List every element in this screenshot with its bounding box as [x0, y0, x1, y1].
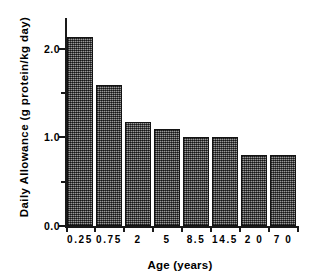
x-tick [152, 226, 154, 232]
bar [212, 137, 238, 226]
y-minor-tick [61, 92, 66, 94]
y-axis-title: Daily Allowance (g protein/kg day) [15, 0, 33, 237]
x-tick-label: 0.25 [67, 234, 93, 245]
x-tick [239, 226, 241, 232]
x-tick-label: 2 0 [245, 234, 264, 245]
y-tick-1.0 [59, 136, 66, 138]
x-tick-label: 0.75 [96, 234, 122, 245]
y-tick-0.0 [59, 225, 66, 227]
x-tick [123, 226, 125, 232]
bar [183, 137, 209, 226]
x-tick-label: 2 [134, 234, 141, 245]
x-tick [210, 226, 212, 232]
x-tick-label: 7 0 [274, 234, 293, 245]
y-tick-2.0 [59, 48, 66, 50]
x-tick [181, 226, 183, 232]
x-tick-label: 5 [163, 234, 170, 245]
y-minor-tick [61, 181, 66, 183]
x-tick [268, 226, 270, 232]
bar [154, 129, 180, 226]
y-tick-label: 2.0 [44, 43, 60, 55]
x-axis-title: Age (years) [60, 259, 300, 271]
bar [67, 37, 93, 226]
plot-area: 0.01.02.0 0.250.75258.514.52 07 0 [65, 18, 299, 227]
bar [125, 122, 151, 226]
y-tick-label: 1.0 [44, 131, 60, 143]
bar [241, 155, 267, 226]
bar [96, 85, 122, 226]
bar [270, 155, 296, 226]
x-tick-origin [66, 226, 68, 232]
bar-chart-figure: Daily Allowance (g protein/kg day) Age (… [0, 0, 311, 279]
x-tick [297, 226, 299, 232]
x-tick-label: 8.5 [187, 234, 206, 245]
y-tick-label: 0.0 [44, 220, 60, 232]
x-tick [94, 226, 96, 232]
x-tick-label: 14.5 [212, 234, 238, 245]
